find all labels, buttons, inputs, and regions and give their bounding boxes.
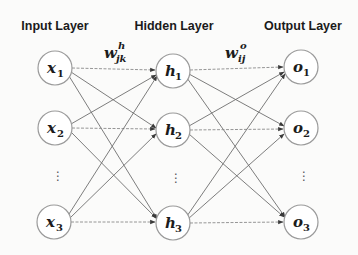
node-subscript: 2 [57,128,64,139]
output-layer-title: Output Layer [264,19,342,33]
node-label: o [293,119,303,137]
output-node-o1: o 1 [284,50,318,84]
edge-h1-o1 [190,67,283,70]
node-subscript: 3 [56,222,63,233]
node-subscript: 2 [303,128,310,139]
edges-input-to-hidden [69,68,157,222]
edge-h3-o3 [190,222,283,223]
hidden-ellipsis: ⋮ [170,171,182,185]
hidden-node-h3: h 3 [156,206,190,240]
input-ellipsis: ⋮ [52,169,64,183]
weight-subscript: ij [238,53,246,64]
edge-x1-h1 [72,68,155,70]
node-subscript: 3 [303,222,310,233]
hidden-layer-title: Hidden Layer [134,19,213,33]
weight-base: w [225,44,239,62]
hidden-node-h1: h 1 [156,54,190,88]
output-ellipsis: ⋮ [298,169,310,183]
edge-x2-h2 [72,128,155,129]
node-label: o [293,213,303,231]
weight-superscript: h [118,40,125,51]
node-subscript: 1 [303,67,310,78]
output-node-o2: o 2 [284,111,318,145]
node-label: x [46,59,57,77]
node-subscript: 2 [175,130,182,141]
weight-label-hidden-output: w o ij [225,40,247,64]
edges-hidden-to-output [187,67,285,223]
hidden-node-h2: h 2 [156,113,190,147]
node-label: o [293,58,303,76]
weight-superscript: o [240,40,247,51]
edge-h2-o2 [190,129,283,130]
node-subscript: 1 [175,71,182,82]
weight-label-input-hidden: w h jk [104,40,127,64]
input-node-x1: x 1 [38,51,72,85]
node-label: x [45,213,56,231]
node-subscript: 3 [175,223,182,234]
node-subscript: 1 [57,68,64,79]
neural-network-diagram: Input Layer Hidden Layer Output Layer w … [0,0,358,255]
output-node-o3: o 3 [284,205,318,239]
weight-subscript: jk [114,53,127,64]
node-label: x [46,119,57,137]
input-node-x2: x 2 [38,111,72,145]
input-layer-title: Input Layer [21,19,89,33]
input-node-x3: x 3 [37,205,71,239]
